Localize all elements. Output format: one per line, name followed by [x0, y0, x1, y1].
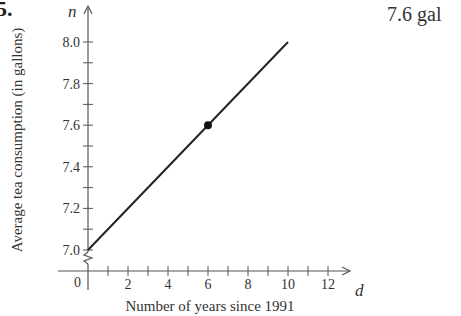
x-tick-label: 4	[165, 277, 172, 292]
y-tick-label: 7.0	[63, 243, 81, 258]
y-tick-label: 7.4	[63, 160, 81, 175]
x-tick-label: 10	[281, 277, 295, 292]
y-tick-label: 7.2	[63, 201, 81, 216]
origin-label: 0	[74, 275, 81, 290]
data-line	[88, 42, 288, 250]
line-chart: 246810127.07.27.47.67.88.0 Average tea c…	[0, 0, 461, 316]
data-series	[88, 42, 288, 250]
y-axis-label: Average tea consumption (in gallons)	[9, 28, 26, 253]
x-tick-label: 8	[245, 277, 252, 292]
y-tick-label: 7.8	[63, 77, 81, 92]
data-point	[204, 121, 212, 129]
x-tick-label: 2	[125, 277, 132, 292]
ticks: 246810127.07.27.47.67.88.0	[63, 35, 336, 292]
y-tick-label: 7.6	[63, 118, 81, 133]
y-axis-variable: n	[68, 2, 77, 21]
axis-break-icon	[84, 252, 92, 264]
y-tick-label: 8.0	[63, 35, 81, 50]
x-axis-label: Number of years since 1991	[125, 298, 294, 314]
axes	[58, 6, 350, 290]
x-tick-label: 12	[321, 277, 335, 292]
x-axis-variable: d	[355, 281, 364, 300]
x-tick-label: 6	[205, 277, 212, 292]
